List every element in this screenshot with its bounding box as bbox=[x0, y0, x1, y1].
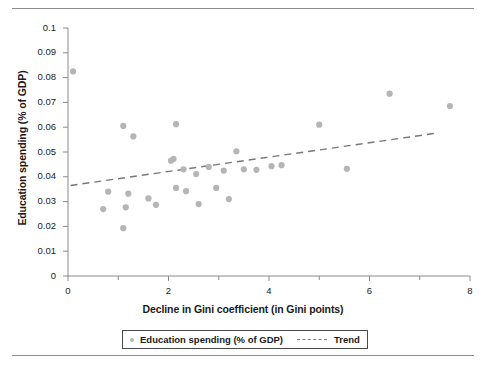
scatter-point bbox=[387, 91, 393, 97]
legend-dashed-line-icon bbox=[297, 339, 327, 340]
scatter-point bbox=[130, 133, 136, 139]
scatter-point bbox=[120, 225, 126, 231]
scatter-point bbox=[344, 166, 350, 172]
scatter-point bbox=[170, 156, 176, 162]
scatter-point bbox=[100, 206, 106, 212]
scatter-point bbox=[125, 191, 131, 197]
scatter-point bbox=[173, 185, 179, 191]
scatter-point bbox=[183, 188, 189, 194]
scatter-point bbox=[145, 195, 151, 201]
legend-label-trend: Trend bbox=[334, 335, 360, 345]
scatter-point bbox=[233, 148, 239, 154]
x-tick-label: 6 bbox=[355, 285, 385, 296]
x-tick-label: 4 bbox=[254, 285, 284, 296]
chart-legend: Education spending (% of GDP) Trend bbox=[122, 330, 368, 349]
scatter-point bbox=[120, 123, 126, 129]
scatter-point bbox=[447, 103, 453, 109]
x-axis-title: Decline in Gini coefficient (in Gini poi… bbox=[0, 303, 486, 315]
y-tick-label: 0 bbox=[16, 270, 56, 281]
trend-line bbox=[71, 133, 435, 185]
scatter-point bbox=[253, 167, 259, 173]
y-tick-label: 0.1 bbox=[16, 22, 56, 33]
scatter-point bbox=[105, 189, 111, 195]
scatter-point bbox=[241, 166, 247, 172]
x-tick-label: 0 bbox=[53, 285, 83, 296]
scatter-point bbox=[278, 162, 284, 168]
scatter-point bbox=[206, 164, 212, 170]
scatter-point bbox=[316, 122, 322, 128]
scatter-point bbox=[173, 121, 179, 127]
legend-dot-icon bbox=[130, 338, 134, 342]
scatter-point bbox=[70, 68, 76, 74]
scatter-point bbox=[196, 201, 202, 207]
x-axis-ticks bbox=[68, 276, 470, 281]
figure-container: 00.010.020.030.040.050.060.070.080.090.1… bbox=[0, 0, 486, 366]
y-axis-ticks bbox=[63, 28, 68, 276]
x-tick-label: 8 bbox=[455, 285, 485, 296]
scatter-point bbox=[226, 196, 232, 202]
scatter-points bbox=[70, 68, 453, 231]
y-axis-title: Education spending (% of GDP) bbox=[16, 38, 28, 258]
legend-label-scatter: Education spending (% of GDP) bbox=[140, 335, 283, 345]
axis-lines bbox=[68, 28, 470, 276]
scatter-point bbox=[123, 204, 129, 210]
scatter-point bbox=[180, 166, 186, 172]
scatter-point bbox=[193, 171, 199, 177]
legend-entry-trend: Trend bbox=[283, 335, 360, 345]
scatter-point bbox=[213, 185, 219, 191]
scatter-point bbox=[221, 168, 227, 174]
trend-line-path bbox=[71, 133, 435, 185]
scatter-point bbox=[268, 163, 274, 169]
scatter-point bbox=[153, 202, 159, 208]
x-tick-label: 2 bbox=[154, 285, 184, 296]
legend-entry-scatter: Education spending (% of GDP) bbox=[130, 335, 283, 345]
